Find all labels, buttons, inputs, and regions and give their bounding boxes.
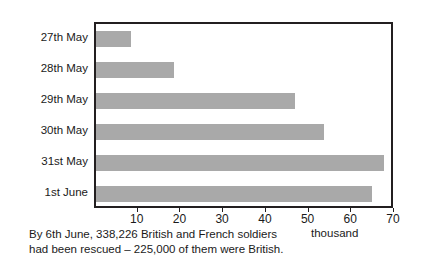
category-label: 27th May xyxy=(0,29,88,45)
caption-line-2: had been rescued – 225,000 of them were … xyxy=(29,242,319,257)
x-tick-label: 40 xyxy=(248,212,282,227)
bar xyxy=(96,93,295,109)
bar xyxy=(96,155,384,171)
chart-caption: By 6th June, 338,226 British and French … xyxy=(29,227,319,256)
category-label: 31st May xyxy=(0,153,88,169)
plot-area xyxy=(94,22,393,208)
x-tick-label: 70 xyxy=(376,212,410,227)
bar xyxy=(96,31,131,47)
category-label: 30th May xyxy=(0,122,88,138)
x-tick-label: 20 xyxy=(162,212,196,227)
bar xyxy=(96,124,324,140)
dunkirk-evacuation-bar-chart-figure: 27th May28th May29th May30th May31st May… xyxy=(0,0,423,264)
category-axis-labels: 27th May28th May29th May30th May31st May… xyxy=(0,22,88,208)
x-tick-label: 30 xyxy=(205,212,239,227)
bar-row xyxy=(96,186,391,202)
category-label: 1st June xyxy=(0,184,88,200)
x-tick-label: 50 xyxy=(291,212,325,227)
x-tick-label: 60 xyxy=(333,212,367,227)
bar-row xyxy=(96,93,391,109)
bar xyxy=(96,62,174,78)
bar-row xyxy=(96,31,391,47)
bar xyxy=(96,186,372,202)
bar-row xyxy=(96,62,391,78)
category-label: 28th May xyxy=(0,60,88,76)
bar-row xyxy=(96,155,391,171)
category-label: 29th May xyxy=(0,91,88,107)
x-tick-label: 10 xyxy=(120,212,154,227)
caption-line-1: By 6th June, 338,226 British and French … xyxy=(29,227,319,242)
bar-series xyxy=(96,24,391,206)
bar-row xyxy=(96,124,391,140)
